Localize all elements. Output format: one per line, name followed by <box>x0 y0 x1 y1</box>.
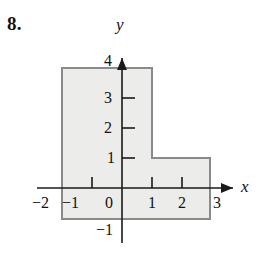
x-tick-label-neg1: −1 <box>62 195 79 211</box>
y-axis-label: y <box>116 16 124 33</box>
figure-container: 8. x y −2 −1 0 1 2 <box>0 0 277 254</box>
x-tick-label-3: 3 <box>213 195 221 211</box>
x-axis-arrowhead <box>221 183 233 193</box>
x-tick-label-zero: 0 <box>105 195 113 211</box>
x-tick-label-neg2: −2 <box>32 195 49 211</box>
y-tick-label-2: 2 <box>104 120 112 136</box>
x-tick-label-2: 2 <box>178 195 186 211</box>
x-tick-label-1: 1 <box>148 195 156 211</box>
shaded-region-polygon <box>62 68 210 219</box>
y-tick-label-3: 3 <box>104 90 112 106</box>
y-tick-label-neg1: −1 <box>96 222 113 238</box>
x-axis-label: x <box>241 178 249 195</box>
y-tick-label-4: 4 <box>104 53 112 69</box>
y-tick-label-1: 1 <box>107 150 115 166</box>
y-axis-arrowhead <box>117 58 127 70</box>
plot-canvas <box>0 0 277 254</box>
